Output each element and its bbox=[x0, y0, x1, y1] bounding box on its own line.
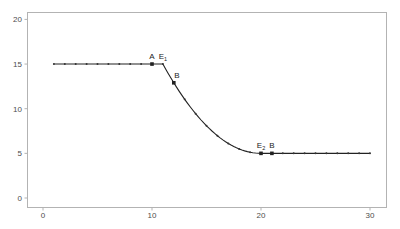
y-tick-label: 20 bbox=[13, 15, 22, 24]
data-point bbox=[97, 63, 99, 65]
data-point bbox=[216, 135, 218, 137]
data-point bbox=[206, 125, 208, 127]
data-point bbox=[140, 63, 142, 65]
y-tick-label: 5 bbox=[18, 149, 23, 158]
y-tick-label: 10 bbox=[13, 105, 22, 114]
y-tick-label: 0 bbox=[18, 194, 23, 203]
data-point bbox=[75, 63, 77, 65]
data-point bbox=[336, 152, 338, 154]
data-point bbox=[227, 142, 229, 144]
x-tick-label: 0 bbox=[41, 211, 46, 220]
line-chart: 05101520 0102030 AE1BE2B bbox=[0, 0, 400, 229]
data-point bbox=[347, 152, 349, 154]
annotation-marker bbox=[150, 62, 154, 66]
annotation-marker bbox=[270, 152, 274, 156]
y-tick-label: 15 bbox=[13, 60, 22, 69]
annotation-marker bbox=[172, 81, 176, 85]
data-point bbox=[249, 151, 251, 153]
annotation-marker bbox=[259, 152, 263, 156]
annotation-label: B bbox=[174, 71, 179, 80]
x-tick-label: 10 bbox=[148, 211, 157, 220]
data-point bbox=[118, 63, 120, 65]
data-point bbox=[315, 152, 317, 154]
plot-frame bbox=[28, 13, 387, 208]
data-point bbox=[325, 152, 327, 154]
data-point bbox=[53, 63, 55, 65]
data-point bbox=[64, 63, 66, 65]
annotation-label: B bbox=[269, 141, 274, 150]
data-point bbox=[129, 63, 131, 65]
x-tick-label: 20 bbox=[257, 211, 266, 220]
data-point bbox=[282, 152, 284, 154]
data-point bbox=[293, 152, 295, 154]
data-point bbox=[184, 98, 186, 100]
data-point bbox=[369, 152, 371, 154]
data-point bbox=[86, 63, 88, 65]
annotation-label: A bbox=[149, 52, 155, 61]
data-point bbox=[304, 152, 306, 154]
data-point bbox=[195, 113, 197, 115]
data-point bbox=[162, 63, 164, 65]
data-point bbox=[358, 152, 360, 154]
y-axis: 05101520 bbox=[13, 15, 27, 203]
data-point bbox=[238, 148, 240, 150]
data-point bbox=[107, 63, 109, 65]
x-tick-label: 30 bbox=[366, 211, 375, 220]
x-axis: 0102030 bbox=[41, 208, 375, 221]
